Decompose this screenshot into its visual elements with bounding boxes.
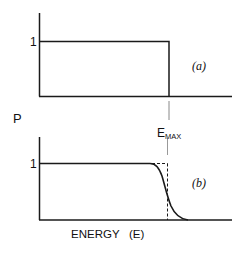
panel-a-y-tick: 1 <box>30 35 37 49</box>
panel-b-y-tick: 1 <box>30 157 37 171</box>
panel-a-label: (a) <box>192 59 206 73</box>
panel-b: 1 (b) <box>30 137 232 220</box>
panel-a: 1 (a) <box>30 13 232 97</box>
energy-probability-diagram: 1 (a) EMAX P 1 (b) ENERGY (E) <box>0 0 242 253</box>
x-axis-label: ENERGY (E) <box>71 228 144 240</box>
panel-a-step-curve <box>40 42 170 97</box>
panel-b-label: (b) <box>192 176 206 190</box>
emax-label: EMAX <box>157 126 181 141</box>
y-axis-label: P <box>13 111 22 126</box>
panel-b-sigmoid-curve <box>40 164 189 221</box>
